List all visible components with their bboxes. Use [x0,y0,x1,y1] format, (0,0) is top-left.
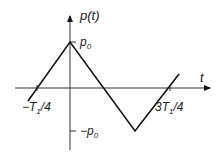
x-axis-label: t [200,70,205,85]
y-axis-label: p(t) [79,8,100,23]
neg-T1-4-label: −T1/4 [22,100,51,116]
three-T1-4-label: 3T1/4 [155,100,184,116]
neg-p0-label: −p0 [80,124,99,140]
waveform [28,42,179,131]
p0-label: p0 [79,35,92,51]
triangle-wave-diagram: p(t) t p0 −p0 −T1/4 3T1/4 [0,0,222,160]
